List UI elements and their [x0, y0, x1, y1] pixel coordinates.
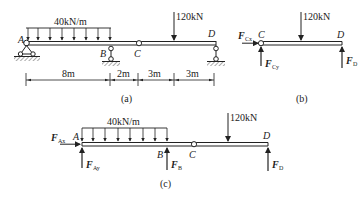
hinge-c-b — [258, 41, 263, 46]
point-load-label-b: 120kN — [303, 11, 330, 22]
caption-c: (c) — [160, 178, 171, 190]
dimension-label-4: 3m — [186, 68, 199, 79]
force-label-d-c-main: F — [271, 159, 279, 170]
point-label-a-B: B — [100, 48, 106, 59]
force-label-ax-sub: Ax — [58, 138, 65, 144]
force-b-c: F B — [167, 148, 182, 171]
dimension-label-3: 3m — [148, 68, 161, 79]
force-label-cy-main: F — [264, 58, 272, 69]
force-label-ay-sub: Ay — [93, 165, 100, 171]
caption-b: (b) — [296, 93, 308, 105]
force-label-cx-main: F — [237, 30, 245, 41]
force-ay-c: F Ay — [82, 148, 100, 171]
force-label-d-c-sub: D — [279, 165, 284, 171]
force-label-d-b-sub: D — [353, 61, 358, 67]
dimension-line-a: 8m 2m 3m 3m — [26, 68, 214, 86]
point-label-b-C: C — [258, 29, 265, 40]
force-d-b: F D — [342, 47, 358, 68]
force-label-b-main: F — [170, 159, 178, 170]
distributed-load-c: 40kN/m — [82, 116, 167, 141]
point-load-label-a: 120kN — [176, 11, 203, 22]
force-label-ay-main: F — [85, 159, 93, 170]
force-label-cx-sub: Cx — [245, 36, 252, 42]
distributed-load-label-a: 40kN/m — [54, 16, 87, 27]
figure-b: C D 120kN F Cx F Cy F D (b) — [237, 11, 358, 105]
force-label-cy-sub: Cy — [272, 64, 279, 70]
point-label-c-C: C — [189, 149, 196, 160]
point-load-a: 120kN — [174, 11, 203, 40]
force-cx-b: F Cx — [237, 30, 258, 43]
dimension-label-2: 2m — [117, 68, 130, 79]
point-load-b: 120kN — [301, 11, 330, 40]
figure-a: 40kN/m A B C 120kN — [14, 11, 225, 105]
force-label-b-sub: B — [178, 165, 182, 171]
beam-diagram: 40kN/m A B C 120kN — [0, 0, 364, 200]
point-label-b-D: D — [336, 29, 345, 40]
hinge-c-c — [191, 142, 196, 147]
point-label-a-C: C — [134, 48, 141, 59]
beam-c — [82, 143, 268, 147]
force-label-ax-main: F — [50, 132, 58, 143]
caption-a: (a) — [121, 93, 132, 105]
force-label-d-b-main: F — [345, 55, 353, 66]
beam-a — [26, 42, 216, 46]
figure-c: 40kN/m A B C D 120kN F Ax F Ay F B — [50, 112, 284, 190]
point-label-a-A: A — [17, 34, 25, 45]
hinge-c-a — [136, 41, 141, 46]
point-label-a-D: D — [207, 28, 216, 39]
force-cy-b: F Cy — [261, 47, 279, 70]
point-load-c: 120kN — [228, 112, 257, 141]
point-label-c-A: A — [72, 131, 80, 142]
point-label-c-B: B — [157, 149, 163, 160]
force-d-c: F D — [268, 148, 284, 171]
point-load-label-c: 120kN — [230, 112, 257, 123]
dimension-label-1: 8m — [62, 68, 75, 79]
distributed-load-label-c: 40kN/m — [107, 116, 140, 127]
beam-b — [261, 42, 342, 46]
distributed-load-a: 40kN/m — [26, 16, 111, 40]
point-label-c-D: D — [262, 130, 271, 141]
